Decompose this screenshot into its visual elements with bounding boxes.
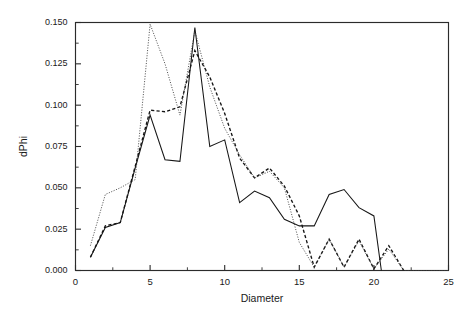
- x-tick-label: 5: [147, 276, 152, 287]
- y-tick-label: 0.025: [45, 224, 68, 234]
- line-chart: 0.0000.0250.0500.0750.1000.1250.150 0510…: [0, 0, 466, 315]
- y-axis-tick-labels: 0.0000.0250.0500.0750.1000.1250.150: [45, 17, 68, 275]
- plot-border: [76, 23, 449, 271]
- data-series-group: [90, 24, 448, 270]
- x-tick-label: 25: [443, 276, 454, 287]
- x-tick-label: 0: [73, 276, 78, 287]
- series-line-dotted: [90, 24, 448, 270]
- x-tick-label: 20: [369, 276, 380, 287]
- y-tick-label: 0.150: [45, 17, 68, 27]
- x-axis-tick-labels: 0510152025: [73, 276, 454, 287]
- y-tick-label: 0.125: [45, 58, 68, 68]
- plot-frame: [76, 23, 449, 271]
- chart-figure: 0.0000.0250.0500.0750.1000.1250.150 0510…: [0, 0, 466, 315]
- y-tick-label: 0.100: [45, 100, 68, 110]
- y-tick-label: 0.050: [45, 182, 68, 192]
- y-tick-label: 0.075: [45, 141, 68, 151]
- y-axis-ticks: [76, 23, 82, 271]
- x-axis-title: Diameter: [241, 292, 284, 304]
- x-tick-label: 15: [294, 276, 305, 287]
- x-tick-label: 10: [219, 276, 230, 287]
- x-axis-ticks: [76, 265, 449, 271]
- y-tick-label: 0.000: [45, 265, 68, 275]
- y-axis-title: dPhi: [17, 136, 29, 157]
